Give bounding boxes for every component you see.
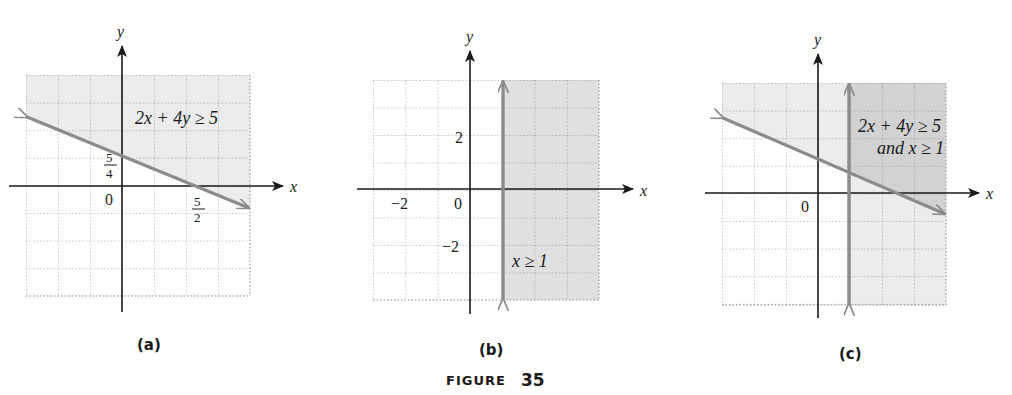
figure-caption: FIGURE 35 — [446, 370, 545, 390]
axis-label-y-b: y — [464, 28, 474, 46]
axis-label-y-a: y — [115, 23, 125, 41]
tick-label-y-pos2-b: 2 — [455, 129, 463, 146]
figure-caption-number: 35 — [521, 370, 545, 390]
origin-label-a: 0 — [105, 191, 113, 208]
panel-b: x y −2 0 2 −2 x ≥ 1 (b) — [357, 28, 647, 359]
tick-label-x-neg2-b: −2 — [391, 195, 408, 212]
panel-label-c: (c) — [839, 345, 862, 363]
panel-c: x y 0 2x + 4y ≥ 5 and x ≥ 1 (c) — [705, 31, 993, 363]
grid-b — [373, 80, 599, 300]
svg-text:5: 5 — [194, 194, 201, 209]
tick-label-y-neg2-b: −2 — [442, 238, 459, 255]
figure-canvas: x y 2x + 4y ≥ 5 0 5 4 5 2 (a) x y −2 0 2… — [0, 0, 1012, 395]
figure-caption-word: FIGURE — [446, 373, 506, 388]
axis-label-x-c: x — [985, 185, 993, 202]
svg-text:4: 4 — [106, 166, 113, 181]
svg-text:5: 5 — [106, 150, 113, 165]
inequality-label-a: 2x + 4y ≥ 5 — [135, 108, 218, 128]
origin-label-c: 0 — [801, 198, 809, 215]
svg-text:2: 2 — [194, 210, 201, 225]
axis-label-x-a: x — [289, 178, 297, 195]
panel-label-b: (b) — [479, 341, 503, 359]
panel-a: x y 2x + 4y ≥ 5 0 5 4 5 2 (a) — [9, 23, 297, 354]
panel-label-a: (a) — [137, 336, 161, 354]
axis-label-y-c: y — [812, 31, 822, 49]
origin-label-b: 0 — [454, 195, 462, 212]
inequality-label-c-line1: 2x + 4y ≥ 5 — [858, 116, 941, 136]
inequality-label-b: x ≥ 1 — [511, 251, 548, 271]
axis-label-x-b: x — [639, 182, 647, 199]
inequality-label-c-line2: and x ≥ 1 — [877, 138, 944, 158]
